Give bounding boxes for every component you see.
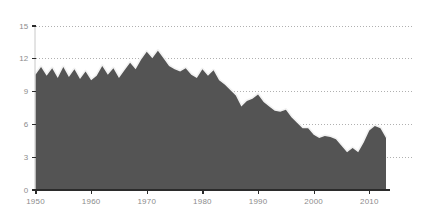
y-tick-label: 6: [24, 120, 29, 129]
y-tick-label: 3: [24, 153, 29, 162]
y-tick-label: 0: [24, 186, 29, 195]
x-tick-label: 1970: [137, 197, 156, 206]
chart-canvas: 03691215 1950196019701980199020002010: [0, 0, 426, 223]
y-axis-tick-labels: 03691215: [19, 22, 35, 195]
x-tick-label: 1950: [26, 197, 45, 206]
x-tick-label: 1980: [193, 197, 212, 206]
x-tick-label: 2000: [304, 197, 323, 206]
area-chart: 03691215 1950196019701980199020002010: [0, 0, 426, 223]
y-tick-label: 12: [19, 54, 29, 63]
x-axis-tick-labels: 1950196019701980199020002010: [26, 190, 379, 206]
x-tick-label: 2010: [360, 197, 379, 206]
x-tick-label: 1960: [82, 197, 101, 206]
y-tick-label: 15: [19, 22, 29, 31]
y-tick-label: 9: [24, 87, 29, 96]
area-series: [36, 51, 387, 190]
x-tick-label: 1990: [249, 197, 268, 206]
